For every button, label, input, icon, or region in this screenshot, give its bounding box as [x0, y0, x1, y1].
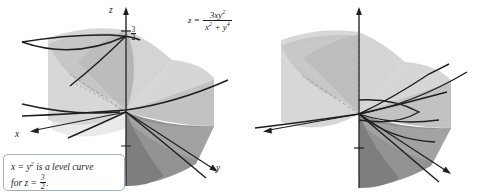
equation-equals: =	[194, 15, 200, 25]
surface-equation: z = 3xy2 x2 + y4	[188, 9, 233, 33]
right-plot-graphic	[243, 0, 486, 193]
left-level-curve-caption: x = y2 is a level curve for z = 3 2 .	[3, 154, 125, 191]
left-z-tick-label: 3 2	[130, 26, 137, 42]
left-tick-fraction: 3 2	[131, 26, 137, 42]
equation-denominator: x2 + y4	[203, 21, 232, 32]
z-axis-arrowhead	[123, 7, 129, 15]
right-surface-figure: x y z − 3 2 x = −y2 is a level curve for…	[243, 0, 486, 193]
z-axis-arrowhead	[356, 7, 362, 15]
left-z-axis-label: z	[109, 6, 113, 16]
x-axis-arrowhead	[263, 127, 272, 133]
equation-numerator: 3xy2	[203, 9, 232, 21]
left-x-axis-label: x	[15, 130, 19, 140]
figure-page: x y z 3 2 x = y2 is a level curve for z …	[0, 0, 486, 193]
equation-fraction: 3xy2 x2 + y4	[203, 9, 232, 33]
y-axis-arrowhead	[442, 167, 451, 174]
left-caption-fraction: 3 2	[40, 174, 46, 191]
equation-lhs: z	[188, 15, 192, 25]
x-axis-arrowhead	[30, 127, 39, 133]
left-y-axis-label: y	[216, 164, 220, 174]
left-caption-line-2: for z = 3 2 .	[11, 175, 117, 192]
left-caption-line-1: x = y2 is a level curve	[11, 159, 117, 175]
